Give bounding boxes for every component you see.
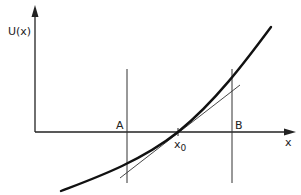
- boundary-b-label: B: [235, 119, 243, 132]
- y-axis-label: U(x): [8, 25, 31, 38]
- x-axis-arrow-icon: [284, 129, 296, 136]
- potential-curve: [61, 27, 271, 191]
- potential-diagram: U(x) x A B x0: [0, 0, 301, 195]
- x-axis-label: x: [285, 136, 292, 149]
- x0-label: x0: [174, 138, 187, 153]
- x0-label-subscript: 0: [181, 143, 187, 153]
- y-axis-arrow-icon: [32, 5, 39, 17]
- boundary-a-label: A: [116, 119, 124, 132]
